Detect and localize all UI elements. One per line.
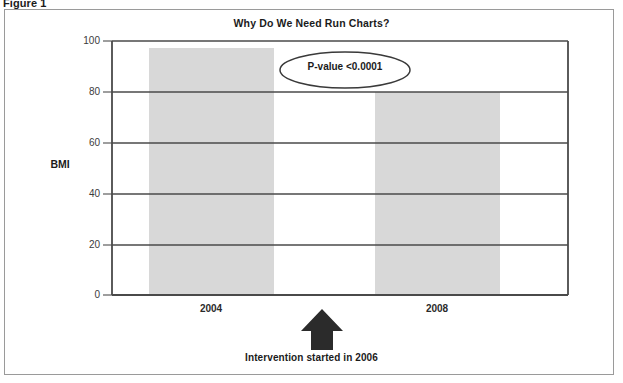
intervention-arrow-icon bbox=[301, 309, 343, 350]
intervention-label: Intervention started in 2006 bbox=[0, 352, 623, 363]
figure-container: Figure 1 Why Do We Need Run Charts? BMI … bbox=[0, 0, 623, 383]
bar-2004 bbox=[149, 48, 274, 295]
plot-area bbox=[0, 0, 623, 383]
p-value-label: P-value <0.0001 bbox=[280, 61, 410, 72]
